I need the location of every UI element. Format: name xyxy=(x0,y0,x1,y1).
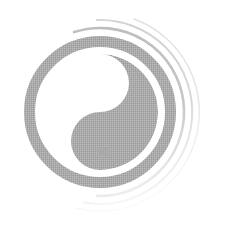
yang-eye-dot xyxy=(100,81,110,91)
image-canvas: Taijitu (yin and yang) symbol drawn in g… xyxy=(0,0,225,229)
yin-yang-symbol xyxy=(0,0,225,229)
yin-eye-dot xyxy=(100,148,109,157)
